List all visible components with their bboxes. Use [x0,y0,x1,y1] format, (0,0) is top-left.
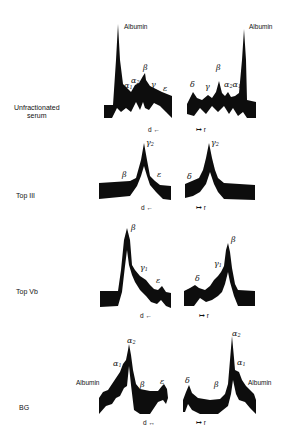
subscript: 2 [136,79,139,85]
trace-topIII-right [185,143,255,200]
peak-label-beta-left: β [122,171,127,179]
axis-label-d-row1: d ← [148,127,160,134]
peak-label-epsilon-left: ε [160,378,164,386]
axis-label-d-row2: d ← [141,205,153,212]
peak-label-delta-right: δ [190,81,195,89]
peak-label-beta-left: β [143,64,148,72]
peak-label-gamma-right: γ [205,83,210,91]
peak-label-gamma2-left: γ2 [146,139,154,147]
peak-label-beta-right: β [216,64,221,72]
peak-label-gamma1-right: γ1 [214,260,222,268]
trace-topVb-left [100,228,171,308]
peak-label-beta-right: β [231,236,236,244]
peak-label-alpha2-left: α2 [131,77,140,85]
peak-label-gamma2-right: γ2 [211,139,219,147]
peak-label-albumin-left: Albumin [124,24,147,31]
peak-label-gamma1-left: γ1 [140,264,148,272]
subscript: 1 [219,262,222,268]
subscript: 2 [132,339,135,345]
axis-label-r-row4: ↦ r [196,420,206,427]
subscript: 2 [216,141,219,147]
peak-label-alpha1-left: α1 [113,360,122,368]
subscript: 2 [151,141,154,147]
peak-label-albumin-right: Albumin [249,24,272,31]
peak-label-beta-right: β [214,381,219,389]
peak-label-alpha2-right: α2 [232,330,241,338]
peak-label-delta-right: δ [187,173,192,181]
peak-label-epsilon-left: ε [163,85,167,93]
subscript: 1 [118,362,121,368]
trace-BG-left [99,344,168,414]
row-label-top-III: Top III [16,192,35,200]
axis-label-r-row3: ↦ r [199,313,209,320]
row-label-top-Vb: Top Vb [16,288,38,296]
subscript: 1 [242,361,245,367]
row-label-line2: serum [14,112,60,120]
peak-label-alpha2alpha1-right: α2α1 [224,81,241,89]
axis-label-r-row2: ↦ r [196,205,206,212]
peak-label-albumin-right: Albumin [248,380,271,387]
peak-label-beta-left: β [140,381,145,389]
axis-label-d-row4: d ↔ [143,420,155,427]
row-label-line1: Unfractionated [14,104,60,112]
peak-label-epsilon-left: ε [157,171,161,179]
trace-serum-right [187,29,256,118]
peak-label-delta-right: δ [195,275,200,283]
trace-BG-right [183,336,256,414]
trace-serum-left [104,24,172,118]
subscript: 2 [237,332,240,338]
peak-label-alpha1-right: α1 [237,359,246,367]
peak-label-beta-left: β [131,224,136,232]
peak-label-epsilon-left: ε [156,277,160,285]
row-label-unfractionated-serum: Unfractionated serum [14,104,60,120]
subscript: 1 [238,83,241,89]
peak-label-delta-right: δ [185,377,190,385]
row-label-BG: BG [19,404,29,412]
axis-label-d-row3: d ← [140,313,152,320]
subscript: 1 [145,266,148,272]
peak-label-albumin-left: Albumin [76,380,99,387]
axis-label-r-row1: ↦ r [196,127,206,134]
peak-label-alpha2-left: α2 [127,337,136,345]
peak-label-gamma-left: γ [151,81,156,89]
